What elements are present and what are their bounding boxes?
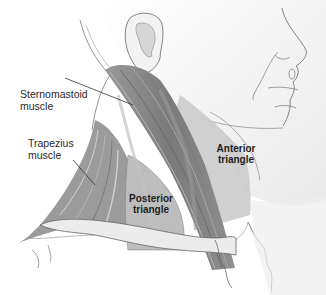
posterior-label-line2: triangle: [120, 204, 182, 215]
posterior-label-line1: Posterior: [120, 193, 182, 204]
trapezius-label-line2: muscle: [28, 149, 74, 161]
anterior-label-line2: triangle: [206, 154, 266, 165]
posterior-triangle-label: Posterior triangle: [120, 193, 182, 215]
anterior-triangle-label: Anterior triangle: [206, 143, 266, 165]
sternomastoid-label-line2: muscle: [20, 100, 88, 112]
anterior-label-line1: Anterior: [206, 143, 266, 154]
trapezius-label-line1: Trapezius: [28, 137, 74, 149]
sternomastoid-label-line1: Sternomastoid: [20, 88, 88, 100]
trapezius-label: Trapezius muscle: [28, 137, 74, 161]
nape-outline: [80, 20, 110, 130]
sternomastoid-label: Sternomastoid muscle: [20, 88, 88, 112]
neck-anatomy-figure: Sternomastoid muscle Trapezius muscle An…: [0, 0, 326, 295]
